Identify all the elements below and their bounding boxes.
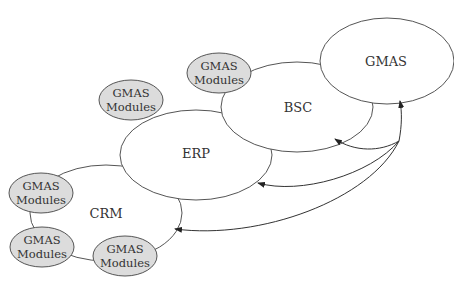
- module-line1: GMAS: [112, 86, 149, 100]
- crm-label: CRM: [89, 206, 122, 221]
- module-line2: Modules: [16, 193, 66, 207]
- bsc-label: BSC: [284, 100, 312, 115]
- module-erp: GMAS Modules: [99, 80, 163, 120]
- module-line1: GMAS: [22, 179, 59, 193]
- gmas-node: GMAS: [320, 18, 454, 104]
- module-line2: Modules: [194, 73, 244, 87]
- module-line1: GMAS: [200, 59, 237, 73]
- arrow-to-gmas: [399, 101, 401, 141]
- module-line1: GMAS: [106, 242, 143, 256]
- erp-label: ERP: [182, 146, 210, 161]
- module-bsc: GMAS Modules: [187, 53, 251, 93]
- module-crm-bottom-right: GMAS Modules: [93, 236, 157, 276]
- module-crm-top: GMAS Modules: [9, 173, 73, 213]
- module-line1: GMAS: [23, 233, 60, 247]
- module-line2: Modules: [17, 247, 67, 261]
- module-line2: Modules: [106, 100, 156, 114]
- module-line2: Modules: [100, 256, 150, 270]
- module-crm-bottom-left: GMAS Modules: [10, 227, 74, 267]
- gmas-label: GMAS: [365, 54, 407, 69]
- diagram-canvas: CRM ERP BSC GMAS GMAS Modules GMAS Modul…: [0, 0, 454, 288]
